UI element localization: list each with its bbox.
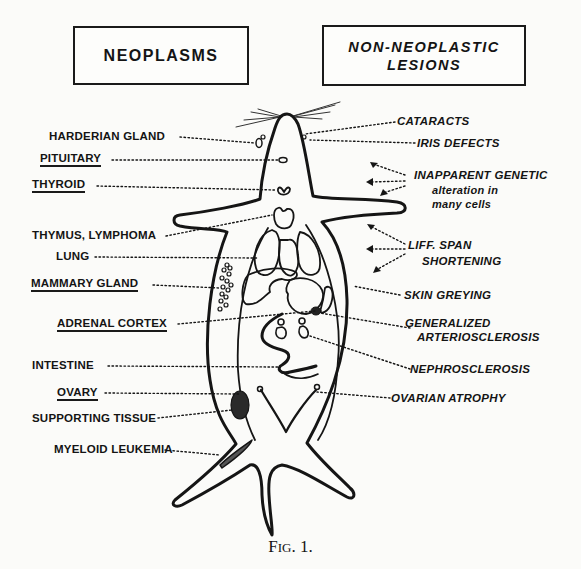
kidneys xyxy=(276,318,308,338)
harderian-gland xyxy=(256,139,262,148)
label-lung: LUNG xyxy=(56,250,89,262)
intestine xyxy=(262,314,316,373)
label-shortening: SHORTENING xyxy=(422,254,501,269)
label-pituitary: PITUITARY xyxy=(40,152,101,167)
thymus xyxy=(274,208,294,229)
label-intestine: INTESTINE xyxy=(32,359,94,371)
lung-right xyxy=(297,232,320,275)
label-arteriosclerosis: ARTERIOSCLEROSIS xyxy=(417,330,540,345)
label-harderian-gland: HARDERIAN GLAND xyxy=(49,130,165,142)
label-life-span: LIFF. SPAN xyxy=(408,238,471,253)
label-thyroid: THYROID xyxy=(32,178,85,193)
body-outline xyxy=(173,114,405,535)
label-inapparent-genetic: INAPPARENT GENETIC xyxy=(414,168,548,183)
arrowheads xyxy=(366,162,388,273)
supporting-tissue-shaded xyxy=(231,391,249,419)
label-myeloid-leukemia: MYELOID LEUKEMIA xyxy=(54,443,173,455)
label-nephrosclerosis: NEPHROSCLEROSIS xyxy=(410,362,530,377)
figure-caption: FIG. 1. xyxy=(0,537,581,557)
label-mammary-gland: MAMMARY GLAND xyxy=(31,277,138,292)
label-many-cells: many cells xyxy=(432,197,491,212)
label-cataracts: CATARACTS xyxy=(397,114,470,129)
label-ovarian-atrophy: OVARIAN ATROPHY xyxy=(391,391,506,406)
label-thymus-lymphoma: THYMUS, LYMPHOMA xyxy=(32,229,156,241)
label-ovary: OVARY xyxy=(57,386,98,401)
label-alteration-in: alteration in xyxy=(432,183,498,198)
label-skin-greying: SKIN GREYING xyxy=(404,288,491,303)
uterus xyxy=(261,390,316,432)
pituitary xyxy=(279,158,287,163)
mammary-gland-dots xyxy=(218,263,233,311)
label-iris-defects: IRIS DEFECTS xyxy=(417,136,500,151)
label-generalized: GENERALIZED xyxy=(405,316,491,331)
adrenal-shaded xyxy=(311,307,321,315)
body-cavity-right xyxy=(306,225,339,440)
thyroid xyxy=(278,187,290,194)
label-supporting-tissue: SUPPORTING TISSUE xyxy=(32,412,156,424)
label-adrenal-cortex: ADRENAL CORTEX xyxy=(57,317,167,332)
